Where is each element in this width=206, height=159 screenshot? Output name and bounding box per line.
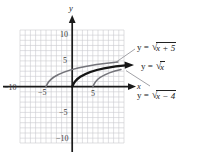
y-axis-label: y <box>69 3 73 13</box>
axis-lines <box>3 15 136 152</box>
x-tick-label-5: 5 <box>91 89 95 98</box>
curve-label-prefix: y = <box>137 42 149 52</box>
y-axis-arrowhead <box>69 15 76 23</box>
curve-label-sqrt-x-minus-4: y = √x − 4 <box>137 89 176 100</box>
y-tick-label--10: −10 <box>56 134 69 143</box>
radical-group: √x − 4 <box>151 89 176 100</box>
curve-sqrt-x-arrowhead <box>125 62 135 69</box>
radicand: x + 5 <box>156 42 176 53</box>
curve-sqrt-x-minus-4 <box>93 69 121 86</box>
curve-sqrt-x <box>72 65 128 86</box>
radical-group: √x <box>155 60 165 71</box>
graph-canvas <box>0 0 206 159</box>
curve-label-sqrt-x-plus-5: y = √x + 5 <box>137 41 176 52</box>
curve-label-prefix: y = <box>137 90 149 100</box>
graph-figure: y x −10 −5 5 10 5 −5 −10 y = √x + 5 y = … <box>0 0 206 159</box>
x-tick-label--10: −10 <box>4 83 17 92</box>
y-tick-label-10: 10 <box>60 30 68 39</box>
x-axis-arrowhead <box>128 83 136 90</box>
y-tick-label-5: 5 <box>63 56 67 65</box>
curve-label-sqrt-x: y = √x <box>141 60 165 71</box>
y-tick-label--5: −5 <box>59 108 68 117</box>
x-tick-label--5: −5 <box>38 88 47 97</box>
radical-group: √x + 5 <box>151 41 176 52</box>
radicand: x <box>160 61 165 72</box>
curve-label-prefix: y = <box>141 61 153 71</box>
radicand: x − 4 <box>156 90 176 101</box>
